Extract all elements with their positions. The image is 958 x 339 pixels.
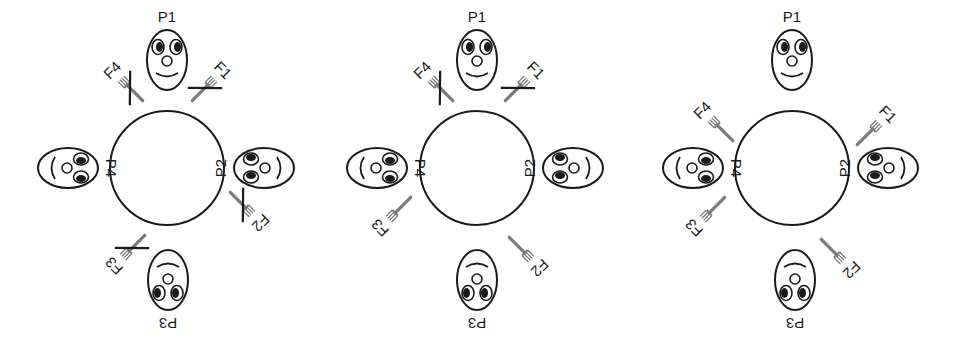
philosopher-label: P2 xyxy=(212,159,229,177)
philosopher-p2: P2 xyxy=(836,148,918,188)
fork-icon xyxy=(395,197,411,213)
fork-icon xyxy=(821,239,837,255)
philosopher-label: P4 xyxy=(412,159,429,177)
philosopher-label: P3 xyxy=(786,315,804,332)
pupil xyxy=(555,172,565,179)
philosopher-p4: P4 xyxy=(663,148,745,188)
pupil xyxy=(781,42,788,52)
table-circle xyxy=(735,111,849,225)
nose-icon xyxy=(884,163,894,173)
pupil xyxy=(174,42,181,52)
pupil xyxy=(463,288,470,298)
nose-icon xyxy=(371,163,381,173)
fork-f4: F4 xyxy=(407,55,461,109)
philosopher-label: P4 xyxy=(728,159,745,177)
pupil xyxy=(799,42,806,52)
nose-icon xyxy=(790,274,800,284)
panel-2: P1P2P3P4F1F2F3F4 xyxy=(347,8,603,332)
nose-icon xyxy=(162,56,172,66)
fork-f2: F2 xyxy=(503,231,552,280)
nose-icon xyxy=(472,274,482,284)
pupil xyxy=(781,288,788,298)
fork-f2: F2 xyxy=(222,184,276,238)
nose-icon xyxy=(569,163,579,173)
pupil xyxy=(701,175,711,182)
fork-label: F2 xyxy=(528,256,552,280)
philosopher-label: P1 xyxy=(468,8,486,25)
fork-f4: F4 xyxy=(690,98,739,147)
fork-label: F1 xyxy=(524,58,548,82)
pupil xyxy=(385,175,395,182)
pupil xyxy=(870,172,880,179)
nose-icon xyxy=(787,56,797,66)
fork-icon xyxy=(509,237,525,253)
fork-label: F4 xyxy=(100,58,124,82)
pupil xyxy=(484,42,491,52)
pupil xyxy=(799,288,806,298)
pupil xyxy=(246,154,256,161)
dining-philosophers-diagram: P1P2P3P4F1F2F3F4P1P2P3P4F1F2F3F4P1P2P3P4… xyxy=(0,0,958,339)
fork-icon xyxy=(857,129,873,145)
philosopher-label: P2 xyxy=(836,159,853,177)
table-circle xyxy=(110,111,224,225)
fork-f2: F2 xyxy=(815,233,864,282)
pupil xyxy=(385,157,395,164)
philosopher-p4: P4 xyxy=(347,148,429,188)
philosopher-p2: P2 xyxy=(521,148,603,188)
fork-f1: F1 xyxy=(851,102,900,151)
fork-f3: F3 xyxy=(368,191,417,240)
nose-icon xyxy=(260,163,270,173)
fork-label: F4 xyxy=(410,58,434,82)
fork-label: F4 xyxy=(690,98,714,122)
fork-icon xyxy=(717,125,733,141)
fork-label: F2 xyxy=(840,258,864,282)
pupil xyxy=(466,42,473,52)
philosopher-p3: P3 xyxy=(775,250,815,332)
fork-label: F3 xyxy=(682,216,706,240)
nose-icon xyxy=(62,163,72,173)
panel-3: P1P2P3P4F1F2F3F4 xyxy=(663,8,918,332)
pupil xyxy=(156,42,163,52)
pupil xyxy=(76,157,86,164)
philosopher-label: P1 xyxy=(783,8,801,25)
philosopher-p1: P1 xyxy=(457,8,497,90)
pupil xyxy=(246,172,256,179)
pupil xyxy=(870,154,880,161)
philosopher-label: P2 xyxy=(521,159,538,177)
fork-label: F1 xyxy=(211,58,235,82)
table-circle xyxy=(420,111,534,225)
nose-icon xyxy=(163,274,173,284)
pupil xyxy=(481,288,488,298)
nose-icon xyxy=(687,163,697,173)
pupil xyxy=(555,154,565,161)
philosopher-label: P4 xyxy=(103,159,120,177)
fork-f1: F1 xyxy=(497,55,551,109)
pupil xyxy=(172,288,179,298)
philosopher-label: P3 xyxy=(468,315,486,332)
pupil xyxy=(701,157,711,164)
philosopher-p3: P3 xyxy=(148,250,188,332)
fork-label: F3 xyxy=(102,254,126,278)
philosopher-p2: P2 xyxy=(212,148,294,188)
philosopher-p1: P1 xyxy=(147,8,187,90)
nose-icon xyxy=(472,56,482,66)
philosopher-label: P1 xyxy=(158,8,176,25)
fork-icon xyxy=(709,197,725,213)
panel-1: P1P2P3P4F1F2F3F4 xyxy=(38,8,294,332)
philosopher-label: P3 xyxy=(159,315,177,332)
philosopher-p3: P3 xyxy=(457,250,497,332)
philosopher-p1: P1 xyxy=(772,8,812,90)
fork-label: F3 xyxy=(368,216,392,240)
fork-label: F2 xyxy=(249,211,273,235)
fork-f1: F1 xyxy=(184,55,238,109)
fork-f3: F3 xyxy=(682,191,731,240)
pupil xyxy=(154,288,161,298)
philosopher-p4: P4 xyxy=(38,148,120,188)
pupil xyxy=(76,175,86,182)
fork-f3: F3 xyxy=(99,227,153,281)
fork-label: F1 xyxy=(876,102,900,126)
fork-f4: F4 xyxy=(97,55,151,109)
